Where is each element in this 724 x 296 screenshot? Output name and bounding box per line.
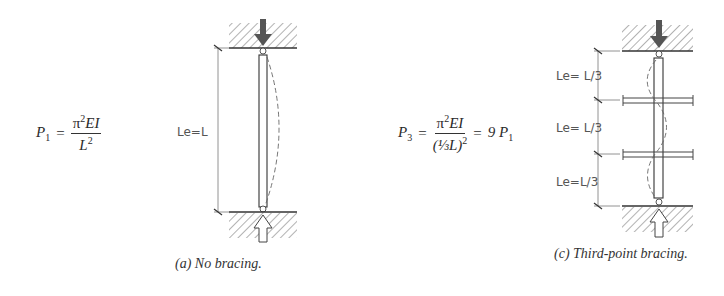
column xyxy=(654,58,663,198)
dimension-label-middle: Le= L/3 xyxy=(556,121,602,135)
figure-c-third-point-bracing: Le= L/3 Le= L/3 Le=L/3 xyxy=(556,20,693,237)
caption-a: (a) No bracing. xyxy=(175,256,262,272)
bottom-pin xyxy=(260,206,266,212)
dimension-label-top: Le= L/3 xyxy=(556,69,602,83)
figure-a-no-bracing: Le=L xyxy=(177,19,297,242)
dimension-label: Le=L xyxy=(177,125,208,139)
bottom-pin xyxy=(656,199,662,205)
column xyxy=(259,55,267,207)
caption-c: (c) Third-point bracing. xyxy=(554,246,688,262)
dimension-label-bottom: Le=L/3 xyxy=(556,175,598,189)
top-pin xyxy=(656,51,662,57)
top-pin xyxy=(260,48,266,54)
